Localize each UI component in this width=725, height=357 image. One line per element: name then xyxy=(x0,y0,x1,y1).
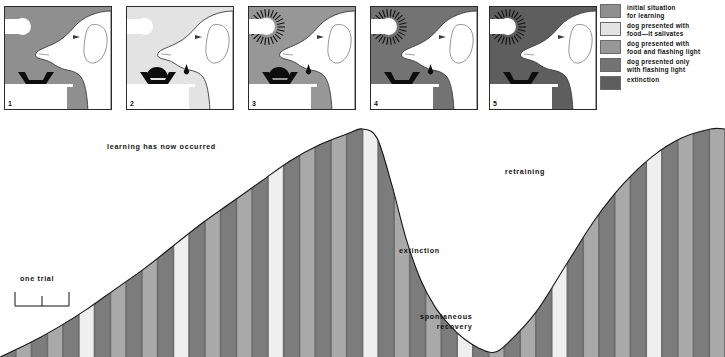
flashing-light-icon xyxy=(258,18,275,35)
dog-head-icon xyxy=(518,7,596,110)
panel-number: 1 xyxy=(8,100,12,108)
dog-head-icon xyxy=(399,7,477,110)
one-trial-bracket-icon xyxy=(14,283,84,309)
panel-number: 4 xyxy=(374,100,378,108)
chart-annotation-learning: learning has now occurred xyxy=(107,142,216,151)
saliva-drop-icon xyxy=(427,64,434,77)
legend-item: extinction xyxy=(600,76,725,92)
legend-item: initial situation for learning xyxy=(600,4,725,20)
legend-label: dog presented with food and flashing lig… xyxy=(627,40,700,55)
conditioning-panel-5: 5 xyxy=(489,6,597,110)
legend-swatch xyxy=(600,76,621,90)
legend-label: dog presented with food—it salivates xyxy=(627,22,689,37)
legend-swatch xyxy=(600,22,621,36)
conditioning-panel-3: 3 xyxy=(248,6,356,110)
learning-curve-chart: learning has now occurred extinction spo… xyxy=(0,116,725,357)
saliva-drop-icon xyxy=(183,64,190,77)
flashing-light-icon xyxy=(499,18,516,35)
legend: initial situation for learningdog presen… xyxy=(600,4,725,94)
panel-number: 5 xyxy=(493,100,497,108)
legend-item: dog presented with food—it salivates xyxy=(600,22,725,38)
dog-head-icon xyxy=(277,7,355,110)
one-trial-label: one trial xyxy=(20,274,54,283)
chart-annotation-spontaneous-recovery: spontaneous recovery xyxy=(420,312,472,331)
legend-item: dog presented with food and flashing lig… xyxy=(600,40,725,56)
legend-swatch xyxy=(600,58,621,72)
legend-label: extinction xyxy=(627,76,659,84)
light-bulb-icon xyxy=(14,18,31,35)
panel-number: 2 xyxy=(130,100,134,108)
dog-head-icon xyxy=(155,7,233,110)
learning-curve-svg xyxy=(0,116,725,357)
legend-label: dog presented only with flashing light xyxy=(627,58,690,73)
chart-annotation-retraining: retraining xyxy=(505,167,545,176)
light-bulb-icon xyxy=(136,18,153,35)
legend-swatch xyxy=(600,40,621,54)
chart-annotation-extinction: extinction xyxy=(399,246,440,255)
dog-head-icon xyxy=(33,7,111,110)
legend-swatch xyxy=(600,4,621,18)
flashing-light-icon xyxy=(380,18,397,35)
panel-number: 3 xyxy=(252,100,256,108)
saliva-drop-icon xyxy=(305,64,312,77)
legend-label: initial situation for learning xyxy=(627,4,676,19)
conditioning-panel-2: 2 xyxy=(126,6,234,110)
conditioning-panel-4: 4 xyxy=(370,6,478,110)
conditioning-panel-1: 1 xyxy=(4,6,112,110)
legend-item: dog presented only with flashing light xyxy=(600,58,725,74)
